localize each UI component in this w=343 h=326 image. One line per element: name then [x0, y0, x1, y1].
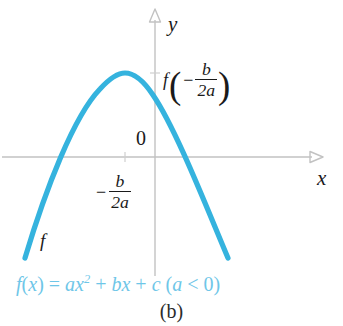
caption-a1: a: [65, 273, 75, 295]
vertex-x-denominator: 2a: [109, 193, 131, 212]
right-paren-icon: ): [218, 65, 230, 106]
vertex-x-minus-sign: −: [96, 182, 106, 202]
caption-equation: f(x) = ax2 + bx + c (a < 0): [16, 272, 220, 296]
vertex-y-numerator: b: [195, 60, 217, 78]
vertex-y-function-name: f: [163, 70, 168, 90]
caption-cond-close-paren: ): [213, 273, 220, 295]
origin-label: 0: [136, 128, 146, 148]
vertex-x-fraction: b2a: [109, 172, 131, 212]
caption-x1: x: [28, 273, 37, 295]
vertex-x-numerator: b: [109, 172, 131, 190]
curve-name-label: f: [40, 231, 45, 250]
caption-zero: 0: [203, 273, 213, 295]
caption-equals: =: [49, 273, 60, 295]
caption-x2: x: [75, 273, 84, 295]
figure-panel: y x 0 f −b2a f(−b2a) f(x) = ax2 + bx + c…: [0, 0, 343, 326]
vertex-y-annotation: f(−b2a): [163, 60, 230, 100]
caption-close-paren: ): [37, 273, 44, 295]
vertex-y-denominator: 2a: [195, 81, 217, 100]
caption-exponent: 2: [84, 272, 90, 286]
caption-x3: x: [121, 273, 130, 295]
left-paren-icon: (: [169, 65, 181, 106]
caption-plus-1: +: [95, 273, 106, 295]
caption-a2: a: [172, 273, 182, 295]
caption-b: b: [111, 273, 121, 295]
subfigure-tag: (b): [0, 300, 343, 323]
vertex-y-fraction: b2a: [195, 60, 217, 100]
caption-less-than: <: [187, 273, 198, 295]
vertex-y-minus-sign: −: [183, 70, 193, 90]
caption-c: c: [152, 273, 161, 295]
x-axis-label: x: [317, 168, 326, 189]
y-axis-label: y: [168, 14, 177, 35]
vertex-x-annotation: −b2a: [96, 172, 132, 212]
caption-plus-2: +: [135, 273, 146, 295]
parabola-curve: [25, 73, 228, 258]
